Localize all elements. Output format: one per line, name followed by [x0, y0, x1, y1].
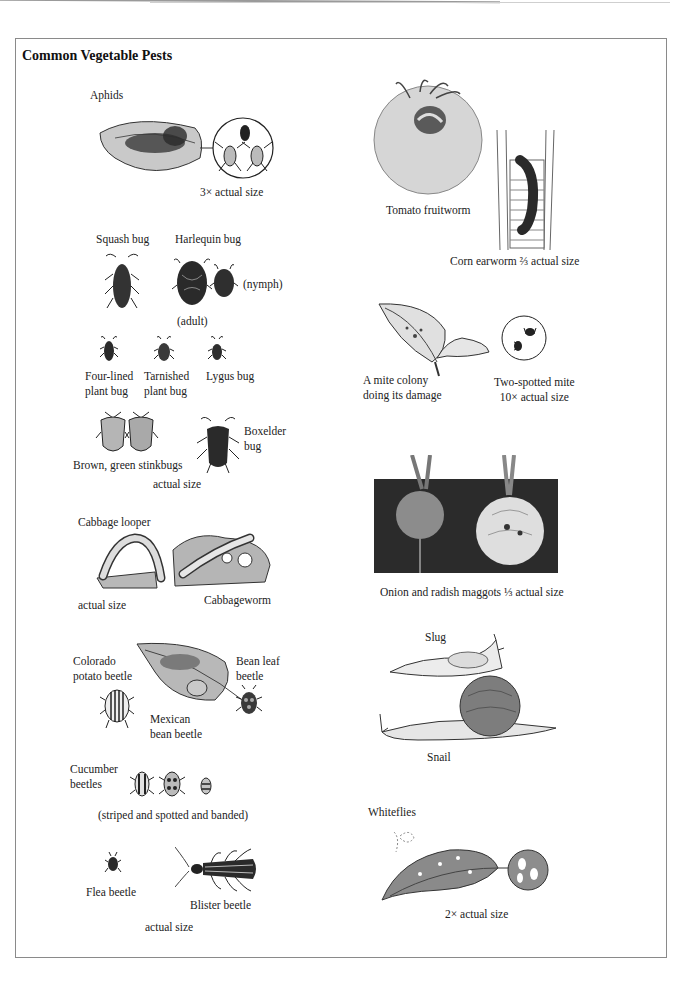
tomato-fruitworm-illustration — [370, 78, 490, 198]
aphids-scale-label: 3× actual size — [200, 185, 263, 200]
four-lined-plant-bug-illustration — [99, 335, 119, 363]
harlequin-bug-label: Harlequin bug — [175, 232, 241, 247]
whiteflies-illustration — [380, 828, 550, 908]
beetles-scale-label: actual size — [145, 920, 193, 935]
maggots-label: Onion and radish maggots ⅓ actual size — [380, 585, 564, 600]
whiteflies-label: Whiteflies — [368, 805, 416, 820]
snail-label: Snail — [427, 750, 451, 765]
stinkbugs-illustration — [95, 402, 161, 458]
lygus-bug-illustration — [207, 335, 227, 363]
two-spotted-mite-label: Two-spotted mite10× actual size — [494, 375, 575, 405]
bean-leaf-beetle-label: Bean leafbeetle — [236, 654, 280, 684]
stinkbugs-label: Brown, green stinkbugs — [73, 458, 183, 473]
slug-snail-illustration — [378, 632, 556, 742]
nymph-label: (nymph) — [243, 277, 283, 292]
bean-leaf-illustration — [135, 642, 250, 707]
cucumber-beetles-illustration — [128, 762, 220, 802]
corn-earworm-label: Corn earworm ⅔ actual size — [450, 254, 579, 269]
tomato-fruitworm-label: Tomato fruitworm — [386, 203, 470, 218]
cucumber-beetles-label: Cucumberbeetles — [70, 762, 118, 792]
blister-beetle-illustration — [175, 845, 260, 895]
flea-beetle-label: Flea beetle — [86, 885, 136, 900]
aphids-label: Aphids — [90, 88, 123, 103]
cabbageworm-label: Cabbageworm — [204, 593, 271, 608]
cucumber-beetles-note: (striped and spotted and banded) — [98, 808, 248, 823]
adult-label: (adult) — [177, 314, 208, 329]
four-lined-plant-bug-label: Four-linedplant bug — [85, 369, 133, 399]
two-spotted-mite-illustration — [500, 314, 548, 362]
boxelder-bug-label: Boxelderbug — [244, 424, 286, 454]
mite-colony-label: A mite colonydoing its damage — [363, 373, 442, 403]
aphids-illustration — [95, 108, 275, 188]
squash-bug-label: Squash bug — [96, 232, 149, 247]
mite-colony-illustration — [377, 302, 492, 378]
caterpillars-scale-label: actual size — [78, 598, 126, 613]
bugs-scale-label: actual size — [153, 477, 201, 492]
harlequin-bug-illustration — [172, 255, 242, 310]
squash-bug-illustration — [104, 252, 140, 314]
whiteflies-scale-label: 2× actual size — [445, 907, 508, 922]
page-title: Common Vegetable Pests — [22, 48, 172, 64]
boxelder-bug-illustration — [195, 415, 241, 475]
lygus-bug-label: Lygus bug — [206, 369, 254, 384]
page-top-edge-shadow — [150, 2, 670, 3]
cabbage-caterpillars-illustration — [95, 530, 275, 592]
blister-beetle-label: Blister beetle — [190, 898, 251, 913]
cabbage-looper-label: Cabbage looper — [78, 515, 151, 530]
onion-radish-maggots-illustration — [372, 455, 560, 575]
bean-leaf-beetle-illustration — [235, 683, 263, 719]
tarnished-plant-bug-illustration — [154, 335, 174, 363]
mexican-bean-beetle-label: Mexicanbean beetle — [150, 712, 202, 742]
tarnished-plant-bug-label: Tarnishedplant bug — [144, 369, 189, 399]
colorado-potato-beetle-illustration — [99, 680, 135, 730]
flea-beetle-illustration — [104, 850, 122, 876]
corn-earworm-illustration — [492, 130, 562, 252]
